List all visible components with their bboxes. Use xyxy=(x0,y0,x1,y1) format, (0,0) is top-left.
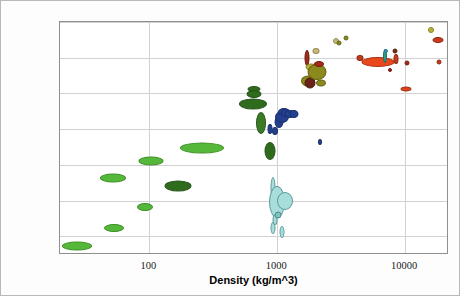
x-axis-minor-tick xyxy=(130,253,131,254)
y-axis-minor-tick xyxy=(59,76,60,77)
y-axis-minor-tick xyxy=(59,211,60,212)
x-axis-minor-tick xyxy=(399,253,400,254)
y-axis-minor-tick xyxy=(59,24,60,25)
data-bubble-metals xyxy=(388,68,392,72)
x-axis-minor-tick xyxy=(367,253,368,254)
data-bubble-wood-parallel xyxy=(247,90,262,98)
data-bubble-metals xyxy=(384,49,388,53)
y-axis-minor-tick xyxy=(59,108,60,109)
data-bubble-metals xyxy=(428,27,434,33)
y-axis-minor-tick xyxy=(59,28,60,29)
data-bubble-foams-low-density xyxy=(139,157,164,166)
x-axis-minor-tick xyxy=(210,253,211,254)
data-bubble-foams-low-density xyxy=(100,174,126,183)
y-axis-minor-tick xyxy=(59,131,60,132)
y-axis-minor-tick xyxy=(59,140,60,141)
data-bubble-metals xyxy=(432,37,443,43)
x-axis-tick xyxy=(405,253,406,254)
y-axis-minor-tick xyxy=(59,219,60,220)
y-axis-minor-tick xyxy=(59,59,60,60)
y-axis-minor-tick xyxy=(59,242,60,243)
x-axis-minor-tick xyxy=(316,253,317,254)
x-axis-minor-tick xyxy=(257,253,258,254)
data-bubble-cork-natural xyxy=(164,180,191,191)
y-axis-minor-tick xyxy=(59,47,60,48)
y-axis-minor-tick xyxy=(59,95,60,96)
data-bubble-ceramics xyxy=(344,36,349,41)
data-bubble-wood-perpendicular xyxy=(256,112,266,134)
y-axis-minor-tick xyxy=(59,244,60,245)
y-axis-minor-tick xyxy=(59,68,60,69)
gridline-horizontal xyxy=(60,201,447,202)
gridline-horizontal xyxy=(60,165,447,166)
data-bubble-metals xyxy=(361,57,394,67)
y-axis-minor-tick xyxy=(59,204,60,205)
x-axis-minor-tick xyxy=(99,253,100,254)
x-axis-minor-tick xyxy=(354,253,355,254)
data-bubble-foams-low-density xyxy=(137,203,153,211)
data-bubble-ceramics xyxy=(316,79,326,86)
x-axis-minor-tick xyxy=(265,253,266,254)
y-axis-minor-tick xyxy=(59,63,60,64)
x-axis-minor-tick xyxy=(239,253,240,254)
y-axis-minor-tick xyxy=(59,72,60,73)
y-axis-minor-tick xyxy=(59,170,60,171)
data-bubble-polymers xyxy=(289,110,298,118)
y-axis-minor-tick xyxy=(59,25,60,26)
plot-area xyxy=(59,21,448,254)
y-axis-minor-tick xyxy=(59,104,60,105)
x-axis-tick-label: 1000 xyxy=(266,260,287,271)
data-bubble-metals xyxy=(393,54,398,64)
y-axis-minor-tick xyxy=(59,226,60,227)
data-bubble-metals xyxy=(437,59,442,64)
data-bubble-polymers xyxy=(318,139,322,145)
y-axis-minor-tick xyxy=(59,167,60,168)
y-axis-minor-tick xyxy=(59,33,60,34)
gridline-vertical xyxy=(149,22,150,253)
data-bubble-ceramics xyxy=(314,61,324,67)
x-axis-title: Density (kg/m^3) xyxy=(59,274,448,286)
y-axis-minor-tick xyxy=(59,97,60,98)
y-axis-minor-tick xyxy=(59,190,60,191)
y-axis-minor-tick xyxy=(59,99,60,100)
y-axis-minor-tick xyxy=(59,83,60,84)
data-bubble-wood-parallel xyxy=(239,98,267,109)
x-axis-minor-tick xyxy=(137,253,138,254)
gridline-horizontal xyxy=(60,22,447,23)
y-axis-minor-tick xyxy=(59,143,60,144)
y-axis-minor-tick xyxy=(59,133,60,134)
data-bubble-ceramics xyxy=(312,48,319,54)
x-axis-minor-tick xyxy=(271,253,272,254)
y-axis-minor-tick xyxy=(59,179,60,180)
x-axis-minor-tick xyxy=(338,253,339,254)
y-axis-minor-tick xyxy=(59,173,60,174)
data-bubble-metals xyxy=(405,61,410,66)
y-axis-minor-tick xyxy=(59,184,60,185)
gridline-vertical xyxy=(277,22,278,253)
y-axis-minor-tick xyxy=(59,209,60,210)
y-axis-minor-tick xyxy=(59,41,60,42)
y-axis-minor-tick xyxy=(59,118,60,119)
x-axis-minor-tick xyxy=(249,253,250,254)
x-axis-minor-tick xyxy=(226,253,227,254)
x-axis-minor-tick xyxy=(385,253,386,254)
y-axis-minor-tick xyxy=(59,240,60,241)
data-bubble-foams-low-density xyxy=(104,224,124,232)
y-axis-minor-tick xyxy=(59,251,60,252)
data-bubble-elastomers-foams xyxy=(274,211,281,218)
data-bubble-ceramics xyxy=(337,40,342,45)
x-axis-tick-label: 10000 xyxy=(391,260,417,271)
y-axis-minor-tick xyxy=(59,215,60,216)
y-axis-minor-tick xyxy=(59,135,60,136)
y-axis-minor-tick xyxy=(59,154,60,155)
x-axis-minor-tick xyxy=(377,253,378,254)
x-axis-minor-tick xyxy=(188,253,189,254)
data-bubble-elastomers-foams xyxy=(280,226,285,238)
data-bubble-foams-low-density xyxy=(62,241,92,250)
gridline-horizontal xyxy=(60,236,447,237)
data-bubble-metals xyxy=(401,87,412,92)
y-axis-minor-tick xyxy=(59,247,60,248)
y-axis-minor-tick xyxy=(59,137,60,138)
chart-figure: Young's modulus (GPa) Density (kg/m^3) 1… xyxy=(0,0,460,296)
x-axis-minor-tick xyxy=(444,253,445,254)
